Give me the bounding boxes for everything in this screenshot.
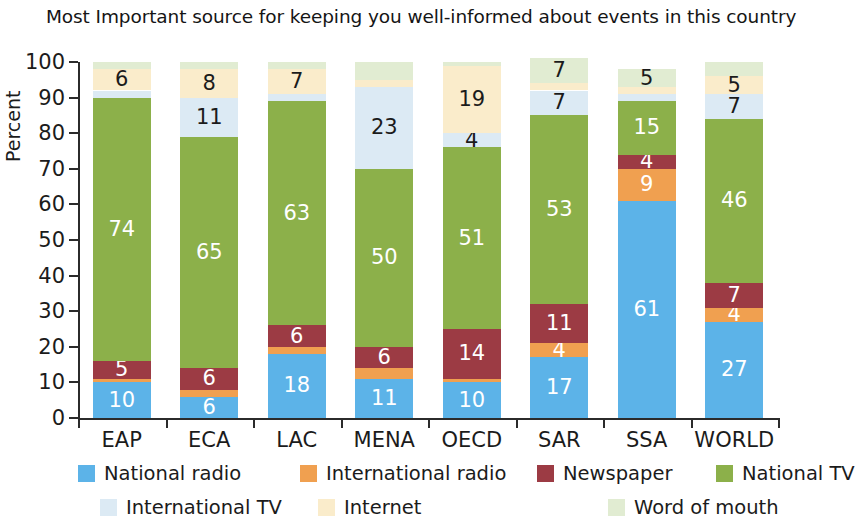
legend-item[interactable]: Newspaper (537, 462, 672, 485)
legend-label: National TV (742, 462, 855, 485)
legend-label: Word of mouth (634, 496, 779, 519)
x-tick-mark (603, 418, 605, 428)
bar-segment[interactable] (93, 379, 151, 383)
bar-segment[interactable]: 74 (93, 98, 151, 361)
bar-stack[interactable]: 6194155 (618, 62, 676, 418)
bar-segment[interactable] (268, 94, 326, 101)
bar-stack[interactable]: 186637 (268, 62, 326, 418)
legend-swatch (318, 499, 335, 516)
bar-stack[interactable]: 6665118 (180, 62, 238, 418)
bar-segment-value: 17 (546, 377, 573, 398)
bar-segment[interactable] (355, 80, 413, 87)
x-category-label: OECD (441, 428, 502, 452)
bar-segment[interactable]: 51 (443, 147, 501, 329)
x-tick-mark (428, 418, 430, 428)
bar-segment[interactable]: 11 (355, 379, 413, 418)
legend-label: Newspaper (563, 462, 672, 485)
legend-item[interactable]: International TV (100, 496, 282, 519)
bar-segment[interactable]: 4 (618, 155, 676, 169)
bar-segment[interactable] (443, 62, 501, 66)
bar-segment[interactable]: 50 (355, 169, 413, 347)
bar-segment[interactable]: 63 (268, 101, 326, 325)
legend-item[interactable]: National radio (78, 462, 241, 485)
bar-segment-value: 6 (203, 397, 216, 418)
bar-segment[interactable] (530, 83, 588, 90)
bar-segment[interactable]: 7 (530, 91, 588, 116)
bar-segment-value: 7 (290, 71, 303, 92)
bar-segment[interactable]: 19 (443, 66, 501, 134)
bar-segment[interactable] (268, 62, 326, 69)
bar-segment[interactable] (618, 94, 676, 101)
bar-segment[interactable]: 4 (530, 343, 588, 357)
bar-segment[interactable] (618, 87, 676, 94)
bar-segment-value: 6 (378, 347, 391, 368)
bar-segment-value: 63 (283, 203, 310, 224)
bar-segment-value: 74 (108, 219, 135, 240)
bar-stack[interactable]: 1165023 (355, 62, 413, 418)
bar-segment[interactable] (355, 62, 413, 80)
legend-swatch (300, 465, 317, 482)
bar-segment[interactable]: 6 (355, 347, 413, 368)
bar-segment[interactable]: 7 (705, 283, 763, 308)
bar-segment[interactable]: 11 (180, 98, 238, 137)
bar-segment[interactable]: 53 (530, 115, 588, 304)
bar-segment[interactable] (180, 390, 238, 397)
bar-segment[interactable]: 8 (180, 69, 238, 97)
x-category-label: ECA (188, 428, 230, 452)
bar-segment[interactable]: 4 (443, 133, 501, 147)
bar-segment[interactable]: 7 (530, 58, 588, 83)
bar-stack[interactable]: 174115377 (530, 62, 588, 418)
bar-segment[interactable] (705, 62, 763, 76)
bar-segment[interactable] (268, 347, 326, 354)
bar-segment[interactable]: 7 (705, 94, 763, 119)
bar-segment[interactable]: 10 (93, 382, 151, 418)
bar-segment-value: 8 (203, 73, 216, 94)
bar-segment-value: 7 (553, 60, 566, 81)
bar-segment-value: 23 (371, 117, 398, 138)
bar-segment[interactable]: 5 (705, 76, 763, 94)
legend-item[interactable]: International radio (300, 462, 506, 485)
bar-segment[interactable]: 6 (180, 368, 238, 389)
bar-segment-value: 11 (371, 388, 398, 409)
x-tick-mark (691, 418, 693, 428)
y-tick-label: 0 (52, 406, 65, 430)
bar-segment[interactable]: 65 (180, 137, 238, 368)
bar-segment[interactable] (355, 368, 413, 379)
bar-segment[interactable]: 6 (268, 325, 326, 346)
bar-segment[interactable]: 10 (443, 382, 501, 418)
bar-segment[interactable]: 5 (618, 69, 676, 87)
bar-segment[interactable]: 23 (355, 87, 413, 169)
bar-segment[interactable]: 6 (93, 69, 151, 90)
bar-segment[interactable] (93, 62, 151, 69)
bar-segment[interactable]: 46 (705, 119, 763, 283)
bar-segment[interactable] (443, 379, 501, 383)
bar-stack[interactable]: 101451419 (443, 62, 501, 418)
bar-segment[interactable]: 15 (618, 101, 676, 154)
x-category-label: WORLD (694, 428, 774, 452)
plot-area: 1057466665118186637116502310145141917411… (78, 62, 778, 418)
bar-segment[interactable]: 11 (530, 304, 588, 343)
legend-item[interactable]: National TV (716, 462, 855, 485)
bar-segment[interactable]: 9 (618, 169, 676, 201)
legend-item[interactable]: Word of mouth (608, 496, 779, 519)
bar-segment[interactable]: 5 (93, 361, 151, 379)
y-tick-mark (69, 61, 78, 63)
bar-segment[interactable]: 17 (530, 357, 588, 418)
bar-stack[interactable]: 105746 (93, 62, 151, 418)
bar-segment[interactable]: 61 (618, 201, 676, 418)
bar-segment[interactable]: 14 (443, 329, 501, 379)
legend-item[interactable]: Internet (318, 496, 421, 519)
bar-segment[interactable] (180, 62, 238, 69)
x-category-label: MENA (354, 428, 415, 452)
bar-segment[interactable]: 27 (705, 322, 763, 418)
bar-stack[interactable]: 27474675 (705, 62, 763, 418)
bar-segment[interactable]: 18 (268, 354, 326, 418)
y-tick-label: 70 (38, 157, 65, 181)
bar-segment[interactable] (93, 91, 151, 98)
legend-label: International TV (126, 496, 282, 519)
chart-title: Most Important source for keeping you we… (46, 6, 786, 27)
bar-segment[interactable]: 4 (705, 308, 763, 322)
legend-label: International radio (326, 462, 506, 485)
bar-segment[interactable]: 7 (268, 69, 326, 94)
bar-segment[interactable]: 6 (180, 397, 238, 418)
